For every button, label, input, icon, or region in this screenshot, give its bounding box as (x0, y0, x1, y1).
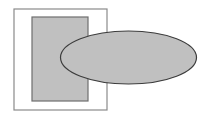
shapes-svg (0, 0, 205, 119)
figure-canvas: Overlapping rectangle and ellipse figure (0, 0, 205, 119)
gray-ellipse (61, 31, 197, 84)
